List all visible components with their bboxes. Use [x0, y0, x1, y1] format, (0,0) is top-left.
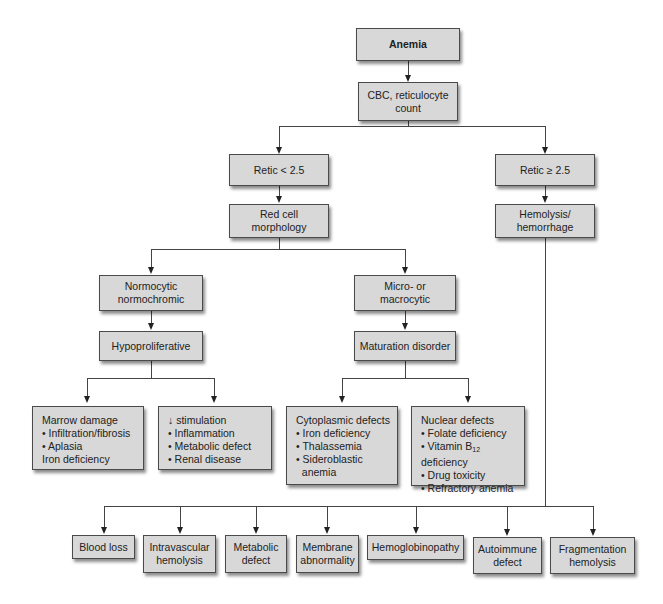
arrow-icon: [465, 396, 471, 403]
arrow-icon: [148, 267, 154, 274]
node-label: Hemolysis/ hemorrhage: [517, 208, 574, 234]
arrow-icon: [339, 396, 345, 403]
arrow-icon: [542, 196, 548, 203]
node-label: Anemia: [389, 38, 427, 51]
connector: [593, 506, 594, 530]
list-item: • Inflammation: [168, 427, 251, 440]
node-label: Autoimmune defect: [478, 543, 537, 569]
box-title: Cytoplasmic defects: [296, 414, 390, 427]
connector: [104, 506, 594, 507]
connector: [151, 249, 406, 250]
connector: [405, 361, 406, 378]
node-label: Fragmentation hemolysis: [559, 543, 627, 569]
node-label: Hemoglobinopathy: [372, 541, 460, 554]
connector: [279, 126, 546, 127]
vitamin-label: • Vitamin B: [421, 440, 472, 452]
node-label: Normocytic normochromic: [118, 280, 185, 306]
connector: [545, 238, 546, 507]
node-cbc: CBC, reticulocyte count: [358, 82, 458, 121]
connector: [256, 506, 257, 528]
arrow-icon: [402, 267, 408, 274]
node-label: Hypoproliferative: [112, 340, 191, 353]
connector: [279, 126, 280, 148]
node-label: Micro- or macrocytic: [380, 280, 430, 306]
node-intravascular-hemolysis: Intravascular hemolysis: [143, 535, 216, 573]
box-title: Nuclear defects: [421, 414, 518, 427]
arrow-icon: [402, 323, 408, 330]
connector: [87, 378, 215, 379]
arrow-icon: [276, 147, 282, 154]
arrow-icon: [542, 147, 548, 154]
list-item: anemia: [296, 466, 390, 479]
node-hypoproliferative: Hypoproliferative: [99, 331, 203, 361]
list-item: • Metabolic defect: [168, 440, 251, 453]
connector: [416, 506, 417, 528]
node-label: Membrane abnormality: [300, 541, 354, 567]
connector: [405, 249, 406, 269]
arrow-icon: [590, 529, 596, 536]
node-marrow-damage: Marrow damage • Infiltration/fibrosis • …: [32, 406, 144, 470]
list-item: • Aplasia: [42, 440, 130, 453]
list-item: • Iron deficiency: [296, 427, 390, 440]
arrow-icon: [504, 529, 510, 536]
node-label: Retic < 2.5: [254, 164, 305, 177]
node-label: Maturation disorder: [360, 340, 450, 353]
arrow-icon: [84, 396, 90, 403]
vitamin-suffix: deficiency: [421, 456, 468, 468]
arrow-icon: [211, 396, 217, 403]
box-title: ↓ stimulation: [168, 414, 251, 427]
node-retic-high: Retic ≥ 2.5: [495, 154, 595, 186]
connector: [279, 238, 280, 249]
connector: [342, 378, 469, 379]
node-red-cell-morphology: Red cell morphology: [229, 204, 329, 238]
list-item: • Refractory anemia: [421, 482, 518, 495]
arrow-icon: [324, 527, 330, 534]
connector: [104, 506, 105, 528]
arrow-icon: [253, 527, 259, 534]
connector: [468, 378, 469, 398]
connector: [87, 378, 88, 398]
node-fragmentation-hemolysis: Fragmentation hemolysis: [550, 537, 635, 574]
connector: [180, 506, 181, 528]
connector: [545, 126, 546, 148]
list-item: • Thalassemia: [296, 440, 390, 453]
node-hemolysis-hemorrhage: Hemolysis/ hemorrhage: [495, 204, 595, 238]
node-hemoglobinopathy: Hemoglobinopathy: [367, 535, 464, 560]
arrow-icon: [177, 527, 183, 534]
subscript: 12: [472, 446, 480, 453]
node-retic-low: Retic < 2.5: [229, 154, 329, 186]
node-membrane-abnormality: Membrane abnormality: [296, 535, 359, 573]
arrow-icon: [405, 75, 411, 82]
node-label: Blood loss: [79, 541, 127, 554]
connector: [214, 378, 215, 398]
list-item: • Sideroblastic: [296, 453, 390, 466]
node-label: CBC, reticulocyte count: [367, 89, 448, 115]
list-item: • Renal disease: [168, 453, 251, 466]
arrow-icon: [276, 196, 282, 203]
list-item: • Vitamin B12 deficiency: [421, 440, 518, 469]
node-maturation-disorder: Maturation disorder: [354, 331, 456, 361]
connector: [342, 378, 343, 398]
box-footer: Iron deficiency: [42, 453, 130, 466]
connector: [151, 361, 152, 378]
connector: [507, 506, 508, 530]
connector: [151, 249, 152, 269]
node-cytoplasmic-defects: Cytoplasmic defects • Iron deficiency • …: [286, 406, 398, 485]
node-nuclear-defects: Nuclear defects • Folate deficiency • Vi…: [411, 406, 525, 486]
arrow-icon: [413, 527, 419, 534]
list-item: • Drug toxicity: [421, 469, 518, 482]
node-label: Intravascular hemolysis: [149, 541, 209, 567]
node-metabolic-defect: Metabolic defect: [225, 535, 287, 573]
node-decreased-stimulation: ↓ stimulation • Inflammation • Metabolic…: [158, 406, 272, 470]
node-label: Red cell morphology: [252, 208, 307, 234]
node-label: Retic ≥ 2.5: [520, 164, 570, 177]
node-normocytic: Normocytic normochromic: [99, 275, 203, 311]
list-item: • Folate deficiency: [421, 427, 518, 440]
connector: [327, 506, 328, 528]
node-label: Metabolic defect: [234, 541, 279, 567]
node-autoimmune-defect: Autoimmune defect: [473, 537, 542, 574]
arrow-icon: [101, 527, 107, 534]
node-blood-loss: Blood loss: [72, 535, 135, 559]
node-micro-macrocytic: Micro- or macrocytic: [354, 275, 456, 311]
arrow-icon: [148, 323, 154, 330]
